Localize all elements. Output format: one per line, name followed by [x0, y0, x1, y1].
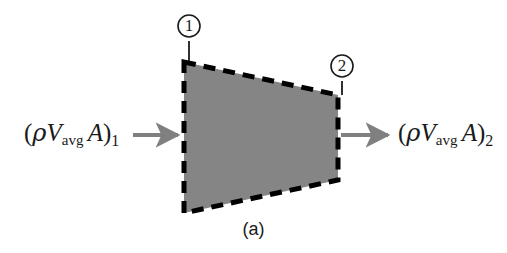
outlet-rho-symbol: ρ	[406, 119, 420, 147]
inlet-area-symbol: A	[88, 119, 103, 146]
inlet-velocity-subscript: avg	[62, 132, 84, 148]
outlet-velocity-symbol: V	[420, 119, 435, 146]
outlet-velocity-subscript: avg	[436, 132, 458, 148]
outlet-station-subscript: 2	[485, 132, 493, 149]
inlet-velocity-symbol: V	[46, 119, 61, 146]
outlet-area-symbol: A	[462, 119, 477, 146]
control-volume-figure: 1 2 (ρVavgA)1 (ρVavgA)2 (a)	[0, 0, 507, 253]
inlet-rho-symbol: ρ	[32, 119, 46, 147]
inlet-mass-flow-label: (ρVavgA)1	[24, 120, 119, 149]
figure-caption: (a)	[0, 219, 507, 240]
control-volume-fill	[184, 62, 338, 213]
station-1-label: 1	[178, 15, 200, 37]
inlet-station-subscript: 1	[111, 132, 119, 149]
outlet-mass-flow-label: (ρVavgA)2	[398, 120, 493, 149]
station-2-label: 2	[331, 55, 353, 77]
